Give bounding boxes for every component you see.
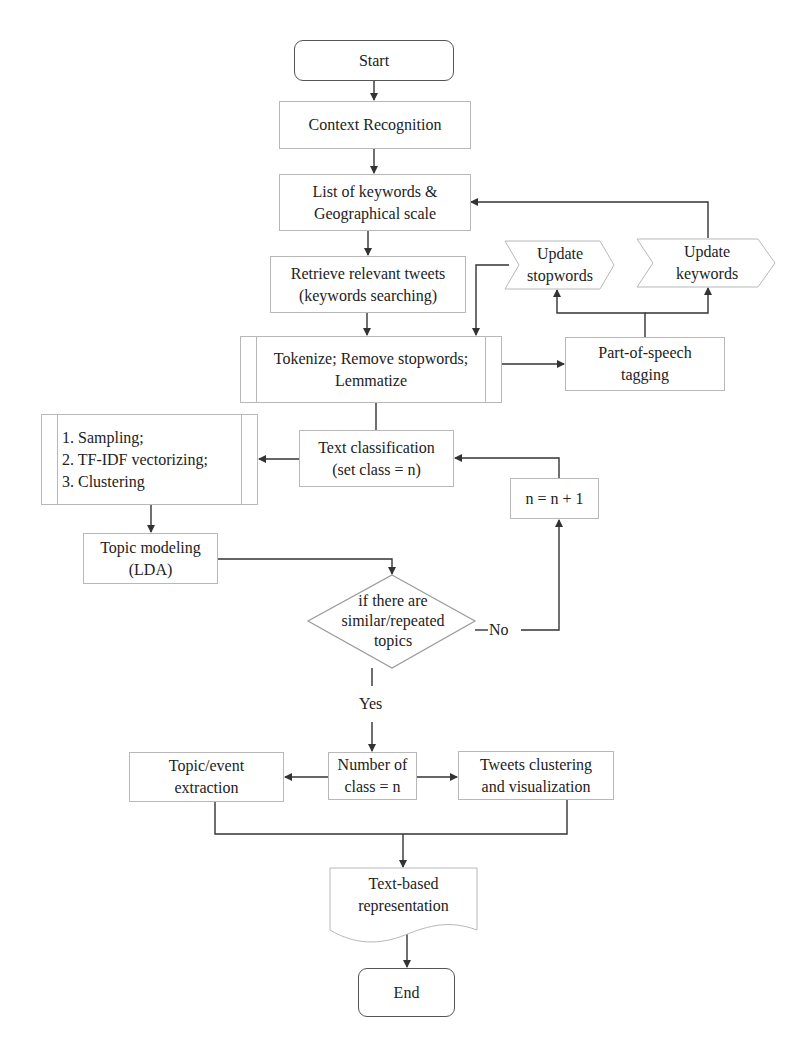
keywords-node: List of keywords & Geographical scale	[279, 174, 471, 231]
retrieve-tweets-node: Retrieve relevant tweets (keywords searc…	[270, 256, 466, 313]
edge-label-yes: Yes	[358, 695, 383, 713]
topic-extraction-label: Topic/event extraction	[169, 755, 244, 799]
increment-n-label: n = n + 1	[525, 488, 583, 510]
topic-modeling-label: Topic modeling (LDA)	[100, 537, 201, 581]
topic-extraction-node: Topic/event extraction	[129, 752, 284, 802]
text-representation-node: Text-based representation	[330, 870, 477, 920]
number-of-class-node: Number of class = n	[328, 752, 417, 800]
decision-label: if there are similar/repeated topics	[341, 591, 444, 651]
text-representation-label: Text-based representation	[358, 873, 449, 917]
context-recognition-node: Context Recognition	[279, 101, 471, 149]
tweets-clustering-node: Tweets clustering and visualization	[458, 751, 614, 800]
context-recognition-label: Context Recognition	[309, 114, 442, 136]
sampling-clustering-node: 1. Sampling; 2. TF-IDF vectorizing; 3. C…	[41, 414, 258, 505]
start-node: Start	[294, 40, 454, 81]
update-stopwords-node: Update stopwords	[512, 242, 608, 288]
keywords-label: List of keywords & Geographical scale	[313, 181, 438, 225]
number-of-class-label: Number of class = n	[338, 754, 408, 798]
tokenize-node: Tokenize; Remove stopwords; Lemmatize	[240, 336, 502, 403]
text-classification-label: Text classification (set class = n)	[318, 437, 435, 481]
start-label: Start	[359, 50, 389, 72]
pos-tagging-node: Part-of-speech tagging	[565, 337, 725, 391]
tokenize-label: Tokenize; Remove stopwords; Lemmatize	[274, 348, 468, 392]
topic-modeling-node: Topic modeling (LDA)	[83, 533, 218, 584]
retrieve-tweets-label: Retrieve relevant tweets (keywords searc…	[291, 263, 446, 307]
update-keywords-node: Update keywords	[648, 240, 766, 286]
edge-label-no: No	[488, 621, 510, 639]
sampling-clustering-label: 1. Sampling; 2. TF-IDF vectorizing; 3. C…	[62, 427, 208, 493]
update-stopwords-label: Update stopwords	[527, 243, 593, 287]
tweets-clustering-label: Tweets clustering and visualization	[480, 754, 592, 798]
decision-node: if there are similar/repeated topics	[318, 588, 468, 654]
text-classification-node: Text classification (set class = n)	[299, 430, 454, 487]
pos-tagging-label: Part-of-speech tagging	[598, 342, 691, 386]
increment-n-node: n = n + 1	[510, 478, 599, 519]
update-keywords-label: Update keywords	[676, 241, 738, 285]
end-node: End	[358, 968, 455, 1017]
end-label: End	[394, 982, 420, 1004]
